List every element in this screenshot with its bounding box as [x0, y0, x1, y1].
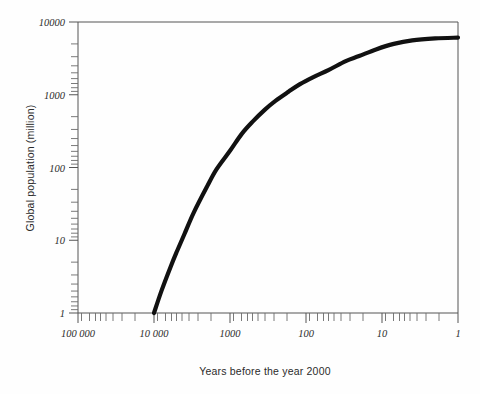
data-series-global-population — [154, 38, 458, 313]
y-tick-label-1000: 1000 — [44, 90, 66, 101]
y-axis-labels: 10000 1000 100 10 1 — [39, 17, 66, 319]
y-tick-label-10000: 10000 — [39, 17, 66, 28]
chart-canvas: 10000 1000 100 10 1 — [0, 0, 480, 394]
x-axis-labels: 100 000 10 000 1000 100 10 1 — [61, 328, 461, 339]
population-curve — [154, 38, 458, 313]
y-tick-label-10: 10 — [55, 235, 66, 246]
x-axis-ticks — [78, 313, 458, 323]
x-tick-label-100: 100 — [298, 328, 315, 339]
x-tick-label-1000: 1000 — [220, 328, 242, 339]
y-tick-label-1: 1 — [60, 308, 65, 319]
population-chart-figure: 10000 1000 100 10 1 — [0, 0, 480, 394]
x-axis-title: Years before the year 2000 — [199, 365, 331, 377]
x-tick-label-100000: 100 000 — [61, 328, 96, 339]
x-tick-label-10: 10 — [377, 328, 388, 339]
axis-frame — [78, 22, 458, 313]
y-axis-title: Global population (million) — [24, 105, 36, 232]
y-tick-label-100: 100 — [49, 163, 66, 174]
x-tick-label-10000: 10 000 — [140, 328, 170, 339]
y-axis-ticks — [69, 22, 78, 313]
plot-axes — [78, 22, 458, 313]
x-tick-label-1: 1 — [455, 328, 460, 339]
